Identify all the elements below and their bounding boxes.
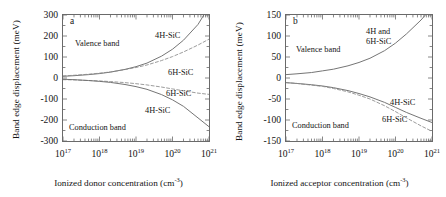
- panel-a-x-tick-0: 1017: [55, 147, 71, 159]
- panel-b-x-tick-1-mantissa: 10: [314, 148, 324, 159]
- panel-b-x-tick-4-exponent: 21: [434, 147, 441, 154]
- panel-a-conduction-4h-sic-label: 4H-SiC: [145, 106, 170, 116]
- panel-a-x-tick-1-mantissa: 10: [91, 148, 101, 159]
- panel-b-x-tick-0-mantissa: 10: [278, 148, 288, 159]
- panel-a-y-axis-title: Band edge displacement (meV): [11, 20, 21, 139]
- panel-a-x-tick-2: 1019: [128, 147, 144, 159]
- panel-a-valence-band-label: Valence band: [75, 39, 119, 49]
- panel-b-x-tick-2: 1019: [351, 147, 367, 159]
- panel-b-y-tick-0: 150: [267, 10, 281, 20]
- panel-b-y-tick-2: 50: [271, 52, 281, 62]
- panel-b-y-tick-5: -100: [263, 115, 281, 125]
- panel-b-letter: b: [293, 17, 298, 27]
- panel-b-x-axis-title-text: Ionized acceptor concentration (cm: [270, 178, 400, 188]
- panel-b-conduction-4h-sic-label: 4H-SiC: [390, 98, 415, 108]
- panel-a-x-tick-4-exponent: 21: [211, 147, 218, 154]
- panel-a-x-tick-3: 1020: [164, 147, 180, 159]
- panel-b-x-tick-0-exponent: 17: [288, 147, 295, 154]
- panel-a-conduction-band-label: Conduction band: [69, 123, 126, 133]
- panel-b-valence-combined-label-line2: 6H-SiC: [366, 37, 391, 47]
- panel-a-x-tick-1: 1018: [91, 147, 107, 159]
- panel-a-conduction-6h-sic-label: 6H-SiC: [166, 89, 191, 99]
- panel-b-x-tick-3-exponent: 20: [397, 147, 404, 154]
- panel-a-y-tick-1: 200: [44, 31, 58, 41]
- panel-a-valence-6h-sic-label: 6H-SiC: [168, 68, 193, 78]
- figure-container: Band edge displacement (meV) 3002001000-…: [0, 0, 446, 197]
- panel-b-x-tick-2-exponent: 19: [361, 147, 368, 154]
- panel-a-y-tick-2: 100: [44, 52, 58, 62]
- panel-b-y-tick-6: -150: [263, 136, 281, 146]
- panel-b-y-tick-1: 100: [267, 31, 281, 41]
- panel-a-letter: a: [70, 17, 74, 27]
- panel-a-x-tick-4-mantissa: 10: [201, 148, 211, 159]
- panel-a-y-tick-4: -100: [40, 94, 58, 104]
- panel-b-y-tick-4: -50: [268, 94, 281, 104]
- panel-b-x-tick-3-mantissa: 10: [387, 148, 397, 159]
- panel-a-x-tick-3-exponent: 20: [174, 147, 181, 154]
- panel-a: Band edge displacement (meV) 3002001000-…: [0, 0, 223, 197]
- panel-b-valence-band-label: Valence band: [296, 45, 340, 55]
- panel-a-y-tick-3: 0: [53, 73, 58, 83]
- panel-b-x-tick-1: 1018: [314, 147, 330, 159]
- panel-b-y-tick-3: 0: [276, 73, 281, 83]
- panel-a-x-tick-4: 1021: [201, 147, 217, 159]
- panel-a-x-tick-0-mantissa: 10: [55, 148, 65, 159]
- panel-a-x-tick-0-exponent: 17: [65, 147, 72, 154]
- panel-b-x-axis-title: Ionized acceptor concentration (cm-3): [223, 176, 446, 188]
- curve-conduction-band-4h-sic: [63, 79, 209, 126]
- panel-b-y-tick-labels: 150100500-50-100-150: [247, 0, 281, 197]
- panel-a-y-tick-labels: 3002001000-100-200-300: [24, 0, 58, 197]
- panel-a-y-tick-0: 300: [44, 10, 58, 20]
- panel-b-conduction-band-label: Conduction band: [292, 121, 349, 131]
- panel-a-valence-4h-sic-label: 4H-SiC: [155, 31, 180, 41]
- panel-a-x-axis-title-tail: ): [180, 178, 183, 188]
- panel-b-y-axis-title: Band edge displacement (meV): [234, 22, 244, 141]
- panel-b-x-tick-4: 1021: [424, 147, 440, 159]
- panel-a-x-tick-1-exponent: 18: [101, 147, 108, 154]
- panel-b-valence-combined-label-line1: 4H and: [366, 27, 390, 37]
- panel-a-y-tick-5: -200: [40, 115, 58, 125]
- panel-a-x-tick-2-exponent: 19: [138, 147, 145, 154]
- panel-a-x-tick-2-mantissa: 10: [128, 148, 138, 159]
- panel-b-x-axis-title-tail: ): [406, 178, 409, 188]
- panel-a-x-tick-3-mantissa: 10: [164, 148, 174, 159]
- panel-b-x-tick-1-exponent: 18: [324, 147, 331, 154]
- panel-b-x-tick-3: 1020: [387, 147, 403, 159]
- panel-b-x-tick-4-mantissa: 10: [424, 148, 434, 159]
- panel-a-x-axis-title-text: Ionized donor concentration (cm: [54, 178, 174, 188]
- panel-b: Band edge displacement (meV) 150100500-5…: [223, 0, 446, 197]
- panel-b-conduction-6h-sic-label: 6H-SiC: [382, 115, 407, 125]
- panel-a-y-tick-6: -300: [40, 136, 58, 146]
- panel-b-x-tick-0: 1017: [278, 147, 294, 159]
- panel-a-x-axis-title: Ionized donor concentration (cm-3): [0, 176, 223, 188]
- panel-b-x-tick-2-mantissa: 10: [351, 148, 361, 159]
